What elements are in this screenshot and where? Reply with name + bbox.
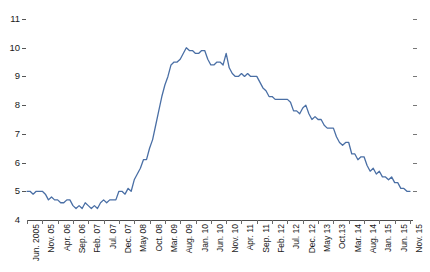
x-tick-label: Oct.13 bbox=[337, 224, 347, 249]
y-tick-mark bbox=[22, 76, 26, 77]
x-tick-label: Nov. 15 bbox=[414, 224, 424, 253]
x-tick-label: Jul. 07 bbox=[108, 224, 118, 249]
x-tick-label: Oct. 08 bbox=[154, 224, 164, 251]
y-tick-mark-right bbox=[413, 76, 417, 77]
y-tick-mark bbox=[22, 163, 26, 164]
y-tick-label: 7 bbox=[15, 129, 20, 139]
x-tick-label: Aug. 14 bbox=[368, 224, 378, 253]
y-tick-mark bbox=[22, 134, 26, 135]
y-tick-label: 11 bbox=[10, 14, 20, 24]
y-tick-label: 8 bbox=[15, 100, 20, 110]
x-tick-label: Jan. 10 bbox=[200, 224, 210, 252]
y-tick-label: 9 bbox=[15, 71, 20, 81]
x-tick-label: Jul. 12 bbox=[291, 224, 301, 249]
x-tick-label: Apr. 06 bbox=[62, 224, 72, 251]
x-tick-label: Mar. 14 bbox=[353, 224, 363, 252]
x-tick-label: Dec. 07 bbox=[123, 224, 133, 253]
x-tick-label: Jun. 2005 bbox=[31, 224, 41, 261]
y-tick-mark bbox=[22, 48, 26, 49]
x-tick-label: Sep. 06 bbox=[77, 224, 87, 253]
x-tick-label: Feb. 12 bbox=[276, 224, 286, 253]
y-tick-mark bbox=[22, 19, 26, 20]
y-tick-mark-right bbox=[413, 105, 417, 106]
x-tick-label: Dec. 12 bbox=[307, 224, 317, 253]
y-tick-mark bbox=[22, 191, 26, 192]
x-tick-label: Jun. 15 bbox=[399, 224, 409, 252]
y-tick-label: 10 bbox=[9, 43, 20, 53]
x-tick-label: Mar. 09 bbox=[169, 224, 179, 252]
x-tick-label: May 13 bbox=[322, 224, 332, 252]
x-tick-label: Apr. 11 bbox=[245, 224, 255, 250]
x-tick-label: Sep. 11 bbox=[261, 224, 271, 253]
x-tick-label: Feb. 07 bbox=[92, 224, 102, 253]
y-tick-mark-right bbox=[413, 48, 417, 49]
y-tick-label: 4 bbox=[15, 215, 20, 225]
y-tick-mark bbox=[22, 105, 26, 106]
unemployment-rate-chart: 4567891011 Jun. 2005Nov. 05Apr. 06Sep. 0… bbox=[0, 0, 430, 272]
x-tick-label: Jan. 15 bbox=[383, 224, 393, 252]
y-tick-label: 6 bbox=[15, 158, 20, 168]
plot-area bbox=[27, 10, 410, 222]
y-tick-label: 5 bbox=[15, 186, 20, 196]
y-tick-mark-right bbox=[413, 191, 417, 192]
x-tick-label: Jun. 10 bbox=[215, 224, 225, 252]
x-tick-label: Nov. 05 bbox=[46, 224, 56, 253]
x-tick-label: Aug. 09 bbox=[184, 224, 194, 253]
series-polyline bbox=[27, 48, 410, 209]
x-tick-mark bbox=[410, 220, 411, 224]
y-tick-mark-right bbox=[413, 163, 417, 164]
x-tick-label: Nov. 10 bbox=[230, 224, 240, 253]
unemployment-rate-line bbox=[27, 10, 410, 222]
x-tick-label: May 08 bbox=[138, 224, 148, 252]
y-tick-mark-right bbox=[413, 134, 417, 135]
y-tick-mark-right bbox=[413, 19, 417, 20]
